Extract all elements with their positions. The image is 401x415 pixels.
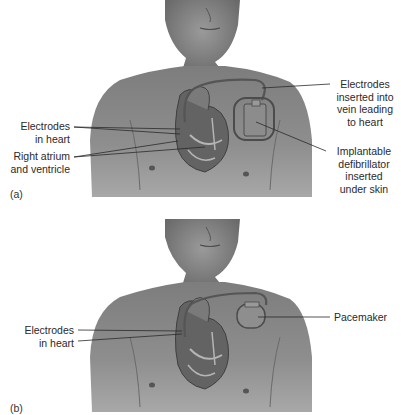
label-pacemaker: Pacemaker (334, 311, 387, 324)
label-right-atrium-and-ventricle: Right atrium and ventricle (2, 150, 70, 175)
label-electrodes-in-heart: Electrodes in heart (8, 324, 74, 349)
head-shape (165, 219, 240, 293)
label-implantable-defibrillator: Implantable defibrillator inserted under… (330, 145, 398, 195)
nipple-right (243, 389, 249, 394)
panel-a-defibrillator: Electrodes in heart Right atrium and ven… (0, 0, 401, 207)
panel-tag-b: (b) (10, 402, 23, 414)
panel-tag-a: (a) (10, 188, 23, 200)
pacemaker-device-icon (237, 302, 265, 328)
nipple-left (149, 383, 155, 388)
label-electrodes-vein: Electrodes inserted into vein leading to… (332, 78, 398, 128)
panel-b-pacemaker: Electrodes in heart Pacemaker (b) (0, 207, 401, 415)
nipple-left (149, 166, 155, 171)
label-electrodes-in-heart: Electrodes in heart (8, 120, 70, 145)
nipple-right (243, 172, 249, 177)
